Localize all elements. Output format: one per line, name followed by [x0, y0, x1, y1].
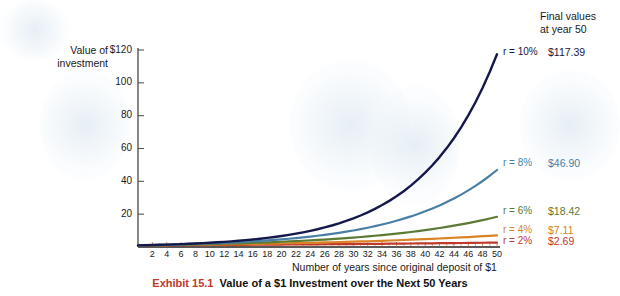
- series-label-4: r = 2%: [503, 235, 532, 246]
- series-label-3: r = 4%: [503, 224, 532, 235]
- chart-figure: Value of investment Number of years sinc…: [0, 0, 620, 296]
- series-label-0: r = 10%: [503, 46, 538, 57]
- series-label-1: r = 8%: [503, 157, 532, 168]
- x-axis-tick-label: 50: [489, 249, 505, 259]
- y-axis-tick-label: $120: [88, 44, 132, 55]
- x-axis-title: Number of years since original deposit o…: [292, 261, 522, 274]
- series-final-value-0: $117.39: [548, 46, 585, 58]
- legend-heading: Final values at year 50: [540, 10, 620, 35]
- y-axis-tick-label: 100: [88, 76, 132, 87]
- y-axis-tick-label: 20: [88, 208, 132, 219]
- exhibit-number: Exhibit 15.1: [152, 277, 213, 289]
- y-axis-tick-label: 60: [88, 142, 132, 153]
- y-axis-tick-label: 80: [88, 109, 132, 120]
- figure-caption: Exhibit 15.1 Value of a $1 Investment ov…: [0, 277, 620, 289]
- series-label-2: r = 6%: [503, 205, 532, 216]
- series-line-0.08: [138, 170, 497, 245]
- y-axis-tick-label: 40: [88, 175, 132, 186]
- series-line-0.06: [138, 217, 497, 246]
- series-final-value-2: $18.42: [548, 205, 580, 217]
- series-final-value-4: $2.69: [548, 235, 574, 247]
- series-final-value-1: $46.90: [548, 157, 580, 169]
- caption-text: Value of a $1 Investment over the Next 5…: [220, 277, 468, 289]
- series-line-0.1: [138, 54, 497, 245]
